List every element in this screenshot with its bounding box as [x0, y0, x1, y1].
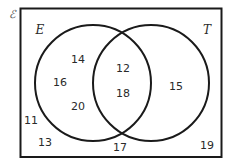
region-e-only-value: 14 [71, 53, 85, 66]
region-outside-value: 19 [200, 139, 214, 152]
region-outside-value: 13 [38, 136, 52, 149]
venn-diagram: ℰ E T 14 16 20 12 18 15 11 13 17 19 [0, 0, 234, 168]
region-t-only-value: 15 [169, 80, 183, 93]
region-e-only-value: 16 [53, 76, 67, 89]
region-intersection-value: 18 [116, 87, 130, 100]
region-outside-value: 17 [113, 141, 127, 154]
region-intersection-value: 12 [116, 62, 130, 75]
universal-set-symbol: ℰ [9, 8, 17, 21]
region-e-only-value: 20 [71, 100, 85, 113]
region-outside-value: 11 [24, 114, 38, 127]
set-t-label: T [203, 23, 212, 37]
set-e-label: E [35, 23, 45, 37]
